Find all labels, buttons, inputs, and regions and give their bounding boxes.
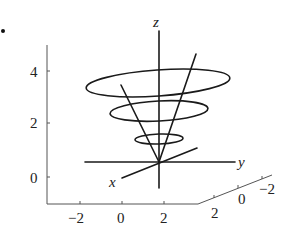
coordinate-axes <box>85 31 235 188</box>
b-tick-label-m2: −2 <box>68 210 84 226</box>
b-tick-label-0: 0 <box>117 210 125 226</box>
d-tick-label-2: 2 <box>211 205 219 221</box>
x-axis-label: x <box>108 174 116 190</box>
cone-3d-plot: 4 2 0 −2 0 2 2 0 −2 z y x <box>0 0 291 240</box>
d-tick-label-m2: −2 <box>259 181 275 197</box>
z-axis-label: z <box>152 14 159 30</box>
d-tick-label-0: 0 <box>238 191 246 207</box>
b-tick-label-2: 2 <box>160 210 168 226</box>
circle-large <box>85 65 230 101</box>
y-axis-label: y <box>236 154 245 170</box>
v-tick-label-2: 2 <box>30 115 38 131</box>
cross-sections <box>85 65 230 145</box>
v-tick-label-4: 4 <box>30 64 38 80</box>
v-tick-label-0: 0 <box>30 170 38 186</box>
bullet-marker <box>1 29 5 33</box>
